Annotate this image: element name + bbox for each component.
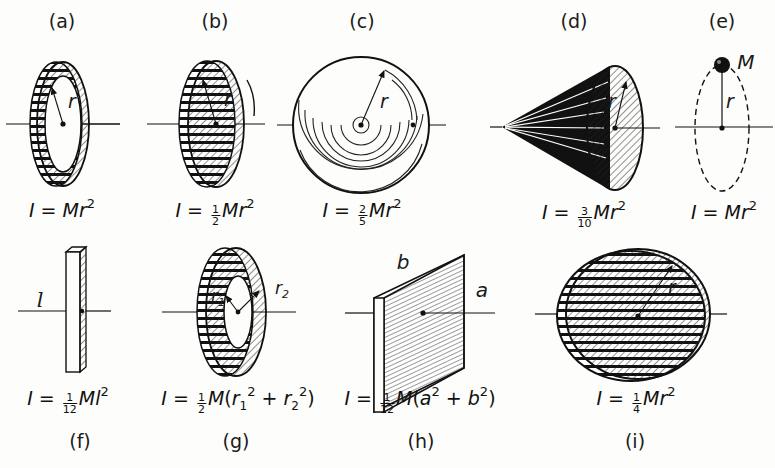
figure-e-point-mass — [675, 57, 773, 191]
formula-c: I = 25Mr2 — [322, 196, 401, 227]
formula-h: I = 112M(a2 + b2) — [344, 384, 495, 415]
panel-label-b: (b) — [202, 10, 229, 32]
formula-d: I = 310Mr2 — [542, 198, 626, 229]
symbol-a-h: a — [476, 278, 488, 302]
symbol-r-a: r — [68, 90, 76, 112]
figure-f-rod — [18, 247, 111, 372]
formula-e: I = Mr2 — [691, 198, 757, 223]
symbol-r2-g: r2 — [275, 278, 289, 301]
formula-i: I = 14Mr2 — [596, 384, 675, 415]
formula-b: I = 12Mr2 — [175, 196, 254, 227]
figure-c-sphere — [277, 57, 446, 193]
symbol-r-e: r — [726, 90, 734, 112]
symbol-r-c: r — [380, 90, 388, 112]
panel-label-i: (i) — [625, 430, 645, 452]
formula-f: I = 112Ml2 — [27, 384, 109, 415]
figure-b-disk — [147, 61, 265, 187]
panel-label-e: (e) — [709, 10, 736, 32]
figure-a-hoop — [6, 62, 120, 186]
panel-label-c: (c) — [349, 10, 374, 32]
panel-label-f: (f) — [69, 430, 91, 452]
symbol-r-b: r — [224, 88, 232, 110]
formula-g: I = 12M(r12 + r22) — [161, 384, 314, 415]
panel-label-h: (h) — [408, 430, 435, 452]
panel-label-g: (g) — [223, 430, 250, 452]
symbol-M-e: M — [737, 50, 754, 74]
symbol-l-f: l — [37, 288, 44, 312]
formula-a: I = Mr2 — [29, 196, 95, 221]
symbol-b-h: b — [397, 250, 410, 274]
symbol-r1-g: r1 — [211, 286, 225, 309]
panel-label-a: (a) — [49, 10, 75, 32]
figure-g-annulus — [162, 248, 296, 376]
symbol-r-i: r — [668, 276, 676, 298]
panel-label-d: (d) — [561, 10, 588, 32]
figure-d-cone — [490, 66, 660, 190]
symbol-r-d: r — [608, 90, 616, 112]
figure-i-disk-diameter — [535, 249, 727, 382]
